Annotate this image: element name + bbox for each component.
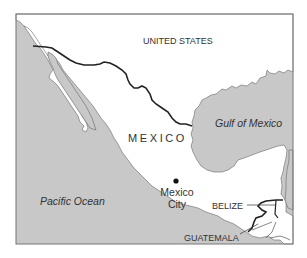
label-guatemala: GUATEMALA: [184, 233, 239, 243]
label-mexico: MEXICO: [128, 132, 187, 144]
mexico-map: UNITED STATES MEXICO Gulf of Mexico Paci…: [0, 0, 307, 258]
label-pacific-ocean: Pacific Ocean: [40, 195, 105, 207]
label-mexico-city-line2: City: [168, 198, 187, 210]
label-united-states: UNITED STATES: [143, 36, 213, 46]
label-mexico-city-line1: Mexico: [160, 186, 193, 198]
mexico-city-marker-icon: [173, 178, 178, 183]
label-gulf-of-mexico: Gulf of Mexico: [215, 117, 282, 129]
label-belize: BELIZE: [212, 201, 243, 211]
